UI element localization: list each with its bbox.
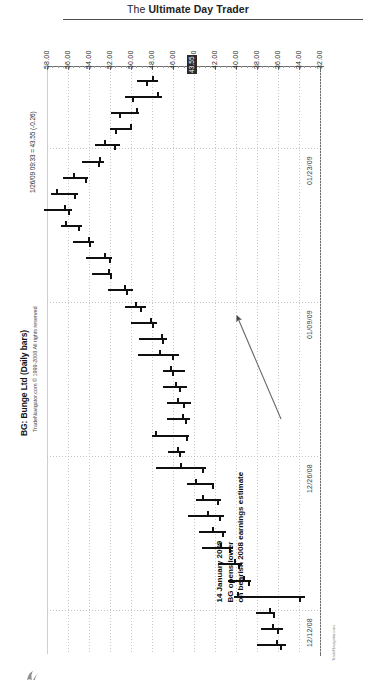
price-minor-tick — [163, 66, 164, 68]
ohlc-bar — [139, 338, 166, 340]
ohlc-close-tick — [202, 468, 204, 473]
ohlc-open-tick — [155, 431, 157, 436]
running-title-bold: Ultimate Day Trader — [148, 3, 249, 15]
ohlc-open-tick — [130, 124, 132, 129]
chart-title: BG: Bunge Ltd (Daily bars) — [19, 330, 29, 436]
price-minor-tick — [294, 66, 295, 68]
ohlc-open-tick — [175, 382, 177, 387]
ohlc-bar — [61, 225, 82, 227]
ohlc-open-tick — [64, 205, 66, 210]
running-title-prefix: The — [127, 3, 148, 15]
price-gridline — [320, 66, 321, 654]
ohlc-close-tick — [146, 81, 148, 86]
chart-copyright: TradeNavigator.com © 1999-2008 All right… — [32, 307, 38, 432]
ohlc-open-tick — [157, 92, 159, 97]
price-minor-tick — [252, 66, 253, 68]
price-minor-tick — [283, 66, 284, 68]
price-minor-tick — [79, 66, 80, 68]
date-tick-label: 12/12/08 — [306, 618, 313, 647]
publisher-mark — [24, 669, 40, 681]
date-gridline — [47, 148, 320, 149]
ohlc-bar — [257, 644, 286, 646]
date-tick-label: 01/09/09 — [306, 310, 313, 339]
price-gridline — [68, 66, 69, 654]
price-gridline — [278, 66, 279, 654]
price-tick-label: 38.00 — [253, 50, 260, 69]
price-gridline — [257, 66, 258, 654]
price-tick-label: 52.00 — [106, 50, 113, 69]
price-tick-label: 42.00 — [211, 50, 218, 69]
ohlc-close-tick — [140, 307, 142, 312]
ohlc-open-tick — [195, 479, 197, 484]
price-tick-label: 40.00 — [232, 50, 239, 69]
ohlc-close-tick — [119, 113, 121, 118]
ohlc-open-tick — [152, 76, 154, 81]
ohlc-close-tick — [179, 387, 181, 392]
price-tick-label: 32.00 — [316, 50, 323, 69]
ohlc-close-tick — [68, 210, 70, 215]
ohlc-close-tick — [115, 129, 117, 134]
chart-figure: 58.0056.0054.0052.0050.0048.0046.0044.00… — [0, 26, 376, 681]
ohlc-bar — [92, 273, 112, 275]
ohlc-close-tick — [109, 258, 111, 263]
price-tick-label: 36.00 — [274, 50, 281, 69]
ohlc-open-tick — [269, 608, 271, 613]
ohlc-bar — [167, 402, 191, 404]
price-minor-tick — [73, 66, 74, 68]
ohlc-bar — [167, 418, 190, 420]
ohlc-bar — [261, 628, 283, 630]
price-minor-tick — [178, 66, 179, 68]
ohlc-bar — [256, 612, 275, 614]
price-minor-tick — [315, 66, 316, 68]
last-price-tag: 43.55 — [187, 55, 197, 74]
price-minor-tick — [231, 66, 232, 68]
ohlc-bar — [44, 209, 72, 211]
ohlc-close-tick — [98, 162, 100, 167]
ohlc-bar — [108, 289, 133, 291]
price-tick-label: 58.00 — [43, 50, 50, 69]
ohlc-bar — [168, 451, 185, 453]
ohlc-open-tick — [177, 398, 179, 403]
price-minor-tick — [268, 66, 269, 68]
price-gridline — [152, 66, 153, 654]
ohlc-open-tick — [104, 140, 106, 145]
price-gridline — [47, 66, 48, 654]
ohlc-close-tick — [185, 419, 187, 424]
ohlc-bar — [156, 467, 205, 469]
ohlc-open-tick — [272, 624, 274, 629]
ohlc-open-tick — [104, 253, 106, 258]
ohlc-bar — [86, 257, 112, 259]
ohlc-range — [187, 483, 214, 485]
ohlc-bar — [63, 177, 88, 179]
price-minor-tick — [63, 66, 64, 68]
annotation-line-1: 14 January 2009 — [215, 472, 226, 603]
price-minor-tick — [142, 66, 143, 68]
ohlc-open-tick — [73, 173, 75, 178]
ohlc-open-tick — [159, 350, 161, 355]
ohlc-bar — [163, 386, 187, 388]
date-gridline — [47, 610, 320, 611]
price-tick-label: 34.00 — [295, 50, 302, 69]
ohlc-close-tick — [110, 274, 112, 279]
price-minor-tick — [58, 66, 59, 68]
price-tick-label: 54.00 — [85, 50, 92, 69]
annotation-line-3: on bearish 2008 earnings estimate — [236, 472, 247, 603]
price-minor-tick — [205, 66, 206, 68]
ohlc-open-tick — [207, 511, 209, 516]
price-gridline — [299, 66, 300, 654]
price-minor-tick — [52, 66, 53, 68]
ohlc-close-tick — [152, 323, 154, 328]
price-tick-label: 50.00 — [127, 50, 134, 69]
price-minor-tick — [241, 66, 242, 68]
ohlc-bar — [82, 161, 104, 163]
ohlc-close-tick — [273, 613, 275, 618]
ohlc-bar — [110, 128, 132, 130]
price-minor-tick — [210, 66, 211, 68]
ohlc-bar — [187, 483, 214, 485]
ohlc-bar — [73, 241, 94, 243]
price-minor-tick — [273, 66, 274, 68]
ohlc-bar — [125, 96, 163, 98]
ohlc-close-tick — [186, 436, 188, 441]
ohlc-close-tick — [74, 194, 76, 199]
price-gridline — [131, 66, 132, 654]
